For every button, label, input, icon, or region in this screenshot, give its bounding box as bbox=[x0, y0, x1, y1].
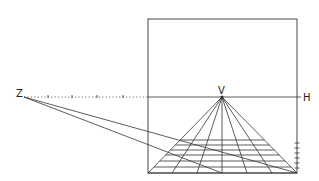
label-h: H bbox=[303, 92, 311, 103]
label-v: V bbox=[218, 85, 225, 96]
orthogonal-line bbox=[222, 97, 297, 173]
orthogonal-line bbox=[197, 97, 222, 173]
diagonal-line-to-corner bbox=[24, 97, 297, 173]
label-z: Z bbox=[16, 88, 23, 99]
orthogonal-line bbox=[172, 97, 222, 173]
orthogonal-line bbox=[222, 97, 272, 173]
orthogonal-line bbox=[222, 97, 247, 173]
perspective-diagram: ZVH bbox=[0, 0, 319, 181]
diagonal-line-to-center bbox=[24, 97, 222, 173]
